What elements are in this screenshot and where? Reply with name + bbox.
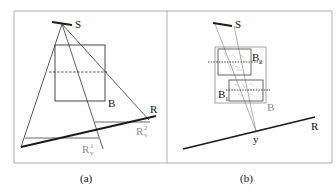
label-source: S	[75, 18, 81, 30]
panel-a: S B R R 2 v R 1 v (a)	[21, 18, 158, 185]
svg-text:R: R	[82, 143, 90, 155]
svg-text:v: v	[144, 131, 148, 139]
panel-b: S B B 2 B 1 R y (b)	[183, 18, 319, 185]
label-rv1: R 1 v	[82, 142, 94, 157]
ray-right	[234, 26, 256, 131]
label-rv2: R 2 v	[136, 124, 148, 139]
svg-text:R: R	[136, 125, 144, 137]
receiver-line	[183, 117, 315, 149]
caption-b: (b)	[240, 172, 253, 185]
svg-text:2: 2	[259, 58, 263, 66]
figure-diagram: S B R R 2 v R 1 v (a)	[0, 0, 336, 193]
box-b	[55, 45, 105, 101]
label-receiver: R	[311, 120, 319, 132]
label-point-y: y	[253, 133, 259, 145]
ray-left	[215, 24, 256, 131]
svg-text:v: v	[90, 149, 94, 157]
caption-a: (a)	[80, 172, 93, 185]
ray-left	[21, 24, 62, 147]
label-source: S	[235, 18, 241, 30]
label-box: B	[267, 101, 274, 113]
label-receiver: R	[150, 103, 158, 115]
svg-text:1: 1	[225, 95, 229, 103]
label-box: B	[108, 97, 115, 109]
label-b2: B 2	[252, 51, 263, 66]
figure-frame	[14, 11, 332, 163]
